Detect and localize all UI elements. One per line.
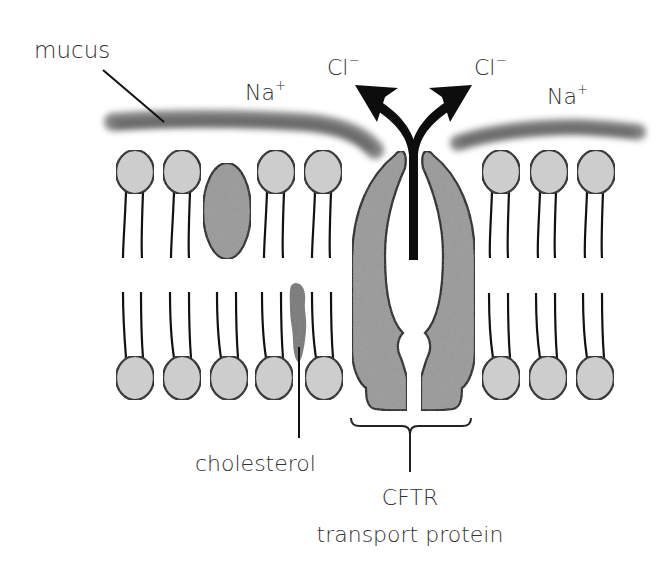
label-transport-protein: transport protein — [310, 522, 510, 547]
label-cl-left-text: Cl — [327, 55, 348, 80]
label-mucus-text: mucus — [34, 37, 110, 63]
phospholipid-bottom-left-group — [116, 292, 343, 400]
label-cholesterol-text: cholesterol — [195, 451, 316, 476]
phospholipid — [116, 150, 154, 258]
label-na-left-charge: + — [275, 78, 286, 93]
cftr-bracket — [351, 418, 471, 472]
label-cftr-text: CFTR — [382, 485, 438, 510]
phospholipid-bottom-right-group — [482, 293, 614, 400]
label-cl-right-text: Cl — [474, 55, 495, 80]
label-na-left-text: Na — [245, 80, 275, 105]
label-na-right: Na+ — [547, 84, 588, 109]
phospholipid — [255, 292, 293, 400]
phospholipid — [210, 292, 248, 400]
phospholipid — [304, 150, 342, 258]
arrow-stem — [409, 150, 418, 260]
label-cl-right-charge: − — [495, 53, 506, 68]
phospholipid-top-right-group — [482, 150, 615, 258]
mucus-layer-right — [458, 127, 638, 143]
mucus-layer-left — [113, 119, 375, 150]
label-cftr: CFTR — [320, 485, 500, 510]
phospholipid — [116, 292, 154, 400]
phospholipid — [577, 150, 615, 258]
phospholipid — [163, 292, 201, 400]
label-cholesterol: cholesterol — [195, 451, 316, 476]
cftr-right-half — [421, 151, 475, 410]
cftr-left-half — [352, 151, 407, 410]
label-na-right-text: Na — [547, 84, 577, 109]
label-na-right-charge: + — [577, 82, 588, 97]
label-cl-left: Cl− — [327, 55, 360, 80]
cholesterol — [290, 283, 306, 438]
label-cl-right: Cl− — [474, 55, 507, 80]
membrane-protein — [203, 163, 251, 259]
phospholipid — [163, 150, 201, 258]
label-cl-left-charge: − — [348, 53, 359, 68]
phospholipid — [576, 293, 614, 400]
label-mucus: mucus — [34, 37, 110, 63]
phospholipid — [529, 293, 567, 400]
phospholipid — [530, 150, 568, 258]
label-transport-protein-text: transport protein — [317, 522, 504, 547]
phospholipid — [257, 150, 295, 258]
label-na-left: Na+ — [245, 80, 286, 105]
phospholipid — [305, 292, 343, 400]
phospholipid — [482, 293, 520, 400]
phospholipid — [482, 150, 520, 258]
